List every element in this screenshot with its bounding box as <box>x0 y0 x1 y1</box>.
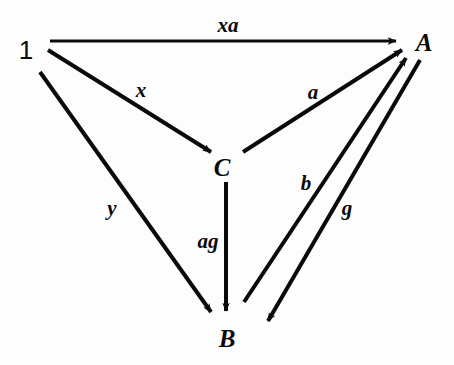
edge-label-y: y <box>107 198 116 219</box>
diagram-canvas <box>0 0 454 365</box>
node-label-C: C <box>214 155 231 180</box>
node-label-one: 1 <box>19 37 33 63</box>
edge-label-x: x <box>136 80 147 101</box>
edge-arrow-g <box>268 60 420 321</box>
edge-label-b: b <box>301 173 312 194</box>
node-label-B: B <box>219 326 236 351</box>
edge-label-g: g <box>342 198 353 219</box>
edge-arrow-b <box>244 58 406 302</box>
edge-label-a: a <box>308 82 319 103</box>
commutative-diagram: 1ACB xaxyaagbg <box>0 0 454 365</box>
edge-label-xa: xa <box>218 15 239 36</box>
edge-arrow-y <box>40 72 211 312</box>
edge-label-ag: ag <box>198 231 219 252</box>
edge-line-group <box>40 41 420 321</box>
node-label-A: A <box>416 30 433 55</box>
edge-arrow-x <box>48 50 211 152</box>
